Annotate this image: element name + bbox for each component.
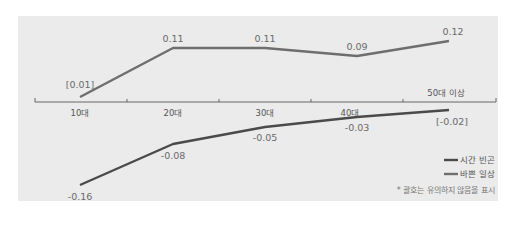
legend-item-time-poverty: 시간 빈곤 — [444, 155, 495, 165]
series-busy-daily-life: [0.01] 0.11 0.11 0.09 0.12 — [66, 26, 464, 97]
data-label: -0.16 — [68, 191, 93, 202]
x-axis: 10대 20대 30대 40대 50대 이상 — [35, 88, 496, 118]
data-label: -0.05 — [253, 132, 278, 143]
legend-item-busy-daily-life: 바쁜 일상 — [444, 169, 495, 179]
legend-label: 시간 빈곤 — [460, 155, 495, 165]
x-tick-label: 20대 — [164, 108, 183, 118]
line-chart: 10대 20대 30대 40대 50대 이상 [0.01] 0.11 0.11 … — [0, 0, 532, 227]
x-tick-label: 30대 — [256, 108, 275, 118]
data-label: 0.11 — [162, 33, 183, 44]
x-tick-label: 50대 이상 — [427, 88, 465, 98]
data-label: 0.09 — [346, 41, 367, 52]
data-label: -0.08 — [161, 150, 186, 161]
data-label: -0.03 — [345, 122, 370, 133]
data-label: 0.11 — [254, 33, 275, 44]
data-label: [0.01] — [66, 79, 95, 90]
x-tick-label: 10대 — [71, 108, 90, 118]
footnote: * 괄호는 유의하지 않음을 표시 — [397, 185, 495, 195]
data-label: 0.12 — [442, 26, 463, 37]
data-label: [-0.02] — [436, 116, 468, 127]
legend: 시간 빈곤 바쁜 일상 * 괄호는 유의하지 않음을 표시 — [397, 155, 495, 195]
legend-label: 바쁜 일상 — [460, 169, 495, 179]
